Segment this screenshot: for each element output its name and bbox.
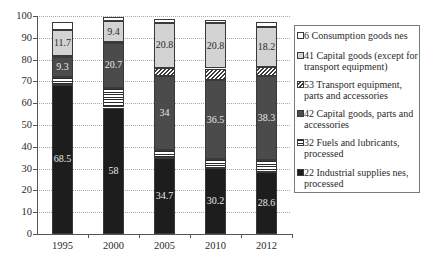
- legend-swatch-icon: [297, 139, 304, 146]
- bar-segment-transport: [205, 69, 226, 80]
- bar-segment-transport: [52, 56, 73, 58]
- bar-value-label: 30.2: [201, 195, 231, 207]
- legend-label-line: 42 Capital goods, parts and: [304, 108, 420, 119]
- y-tick-label: 10: [22, 206, 33, 218]
- bar-segment-transport: [256, 67, 277, 76]
- bar-value-label: 68.5: [48, 153, 78, 165]
- bar-segment-consumption: [52, 22, 73, 31]
- legend-label-line: 41 Capital goods (except for: [304, 50, 420, 61]
- x-tick-label: 2005: [145, 240, 185, 252]
- bar-value-label: 34.7: [150, 190, 180, 202]
- y-tick-label: 40: [22, 141, 33, 153]
- y-tick-label: 30: [22, 163, 33, 175]
- x-tick-label: 1995: [43, 240, 83, 252]
- y-tick-label: 90: [22, 32, 33, 44]
- y-tick-label: 70: [22, 75, 33, 87]
- legend-swatch-icon: [297, 52, 304, 59]
- bar-value-label: 11.7: [48, 37, 78, 49]
- legend-label: 32 Fuels and lubricants,processed: [304, 137, 420, 159]
- bar-segment-consumption: [256, 22, 277, 28]
- legend-label-line: accessories: [304, 119, 420, 130]
- legend-swatch-icon: [297, 81, 304, 88]
- bar-segment-fuels: [256, 160, 277, 172]
- legend-label-line: processed: [304, 148, 420, 159]
- bar-value-label: 58: [99, 165, 129, 177]
- bar-value-label: 9.3: [48, 61, 78, 73]
- legend-label: 6 Consumption goods nes: [304, 30, 420, 41]
- bar-segment-transport: [103, 42, 124, 44]
- y-axis-line: [37, 16, 38, 234]
- bar-value-label: 20.8: [150, 39, 180, 51]
- bar-value-label: 18.2: [252, 41, 282, 53]
- legend-label-line: 53 Transport equipment,: [304, 79, 420, 90]
- legend-label: 22 Industrial supplies nes,processed: [304, 167, 420, 189]
- bar-value-label: 9.4: [99, 26, 129, 38]
- bar-value-label: 38.3: [252, 112, 282, 124]
- bar-segment-consumption: [154, 19, 175, 23]
- bar-segment-consumption: [103, 17, 124, 21]
- bar-segment-fuels: [154, 150, 175, 159]
- legend: 6 Consumption goods nes41 Capital goods …: [294, 25, 420, 193]
- legend-swatch-icon: [297, 110, 304, 117]
- x-tick-label: 2010: [196, 240, 236, 252]
- x-axis-line: [37, 234, 293, 235]
- legend-swatch-icon: [297, 32, 304, 39]
- y-tick-label: 80: [22, 54, 33, 66]
- legend-swatch-icon: [297, 169, 304, 176]
- legend-label-line: parts and accessories: [304, 90, 420, 101]
- bar-segment-fuels: [205, 159, 226, 168]
- x-tick-label: 2000: [94, 240, 134, 252]
- bar-segment-consumption: [205, 20, 226, 23]
- stacked-bar-chart: 010203040506070809010068.59.311.71995582…: [0, 0, 437, 262]
- legend-label-line: transport equipment): [304, 61, 420, 72]
- bar-value-label: 34: [150, 107, 180, 119]
- bar-value-label: 36.5: [201, 114, 231, 126]
- bar-segment-transport: [154, 68, 175, 76]
- legend-label-line: 32 Fuels and lubricants,: [304, 137, 420, 148]
- y-tick-label: 0: [27, 228, 32, 240]
- y-tick-label: 60: [22, 97, 33, 109]
- bar-segment-fuels: [103, 88, 124, 108]
- bar-value-label: 28.6: [252, 197, 282, 209]
- gridline: [37, 16, 290, 17]
- legend-label-line: 22 Industrial supplies nes,: [304, 167, 420, 178]
- legend-label: 41 Capital goods (except fortransport eq…: [304, 50, 420, 72]
- bar-value-label: 20.7: [99, 59, 129, 71]
- y-tick-label: 50: [22, 119, 33, 131]
- bar-segment-fuels: [52, 77, 73, 85]
- x-tick-label: 2012: [247, 240, 287, 252]
- legend-label-line: 6 Consumption goods nes: [304, 30, 420, 41]
- legend-label-line: processed: [304, 178, 420, 189]
- legend-label: 42 Capital goods, parts andaccessories: [304, 108, 420, 130]
- legend-label: 53 Transport equipment,parts and accesso…: [304, 79, 420, 101]
- y-tick-label: 100: [16, 10, 32, 22]
- bar-value-label: 20.8: [201, 40, 231, 52]
- y-tick-label: 20: [22, 184, 33, 196]
